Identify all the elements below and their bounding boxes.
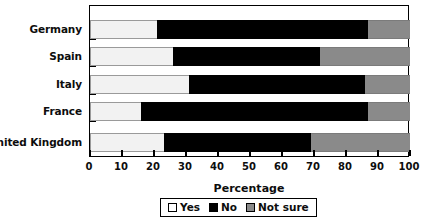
bar-row xyxy=(90,75,408,94)
legend-label: Yes xyxy=(180,201,200,213)
bar-segment-yes xyxy=(90,75,189,94)
legend-item-yes: Yes xyxy=(168,201,200,213)
category-label-spain: Spain xyxy=(49,50,82,62)
legend-item-no: No xyxy=(209,201,237,213)
x-axis-tick-label: 10 xyxy=(107,161,135,172)
x-axis-tick-label: 40 xyxy=(203,161,231,172)
category-label-united-kingdom: United Kingdom xyxy=(0,136,82,148)
x-axis-tick xyxy=(409,150,410,156)
bar-row xyxy=(90,47,408,66)
y-axis-minor-tick xyxy=(90,94,96,95)
x-axis-tick xyxy=(89,150,90,156)
x-axis-title: Percentage xyxy=(89,182,409,195)
legend-item-not-sure: Not sure xyxy=(246,201,309,213)
x-axis-tick-label: 100 xyxy=(395,161,423,172)
x-axis-tick-label: 20 xyxy=(139,161,167,172)
y-axis-minor-tick xyxy=(90,66,96,67)
bar-segment-no xyxy=(157,20,368,39)
category-label-france: France xyxy=(43,105,82,117)
x-axis-tick xyxy=(153,150,154,156)
bar-segment-yes xyxy=(90,102,141,121)
x-axis-tick-label: 50 xyxy=(235,161,263,172)
swatch-no-icon xyxy=(209,203,218,212)
x-axis-tick xyxy=(281,150,282,156)
x-axis-tick xyxy=(249,150,250,156)
x-axis-tick-label: 80 xyxy=(331,161,359,172)
x-axis-tick xyxy=(345,150,346,156)
y-axis-minor-tick xyxy=(90,39,96,40)
plot-area xyxy=(89,5,409,157)
x-axis-tick xyxy=(313,150,314,156)
bar-row xyxy=(90,102,408,121)
chart-legend: YesNoNot sure xyxy=(160,198,317,217)
legend-label: Not sure xyxy=(258,201,309,213)
y-axis-minor-tick xyxy=(90,121,96,122)
bar-segment-not-sure xyxy=(365,75,410,94)
x-axis-tick-label: 0 xyxy=(75,161,103,172)
x-axis-tick xyxy=(217,150,218,156)
bar-segment-not-sure xyxy=(311,133,410,152)
bar-segment-not-sure xyxy=(368,20,410,39)
category-label-germany: Germany xyxy=(29,23,82,35)
bar-segment-not-sure xyxy=(368,102,410,121)
bar-segment-yes xyxy=(90,20,157,39)
bar-segment-no xyxy=(189,75,365,94)
x-axis-tick-label: 90 xyxy=(363,161,391,172)
x-axis-tick xyxy=(377,150,378,156)
x-axis-tick xyxy=(121,150,122,156)
swatch-yes-icon xyxy=(168,203,177,212)
bar-row xyxy=(90,20,408,39)
category-label-italy: Italy xyxy=(56,78,82,90)
x-axis-tick-label: 60 xyxy=(267,161,295,172)
x-axis-tick xyxy=(185,150,186,156)
bar-segment-no xyxy=(173,47,320,66)
x-axis-tick-label: 30 xyxy=(171,161,199,172)
x-axis-tick-label: 70 xyxy=(299,161,327,172)
swatch-notsure-icon xyxy=(246,203,255,212)
bar-segment-no xyxy=(141,102,368,121)
bar-segment-not-sure xyxy=(320,47,410,66)
legend-label: No xyxy=(221,201,237,213)
category-axis-labels: GermanySpainItalyFranceUnited Kingdom xyxy=(0,5,86,157)
bar-segment-yes xyxy=(90,47,173,66)
